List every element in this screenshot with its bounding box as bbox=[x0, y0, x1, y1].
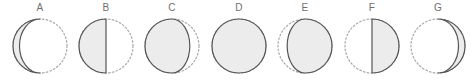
phase-label: F bbox=[339, 2, 405, 14]
lit-region bbox=[372, 19, 399, 73]
phase-label: D bbox=[206, 2, 272, 14]
moon-disc bbox=[272, 14, 338, 80]
moon-phase-panel: B bbox=[73, 0, 139, 81]
phase-label: G bbox=[405, 2, 471, 14]
lit-region bbox=[438, 19, 465, 73]
moon-disc bbox=[7, 14, 73, 80]
lit-region bbox=[145, 19, 190, 73]
moon-phase-panel: G bbox=[405, 0, 471, 81]
moon-disc bbox=[405, 14, 471, 80]
moon-disc bbox=[206, 14, 272, 80]
moon-phase-panel: F bbox=[339, 0, 405, 81]
moon-phase-panel: D bbox=[206, 0, 272, 81]
lit-region bbox=[287, 19, 332, 73]
moon-phase-panel: E bbox=[272, 0, 338, 81]
phase-label: C bbox=[139, 2, 205, 14]
moon-disc bbox=[73, 14, 139, 80]
moon-disc bbox=[139, 14, 205, 80]
phase-label: A bbox=[7, 2, 73, 14]
lit-region bbox=[212, 19, 266, 73]
moon-disc bbox=[339, 14, 405, 80]
phase-label: E bbox=[272, 2, 338, 14]
moon-phase-panel: C bbox=[139, 0, 205, 81]
lit-region bbox=[13, 19, 40, 73]
moon-phase-figure: ABCDEFG bbox=[0, 0, 476, 81]
moon-phase-panel: A bbox=[7, 0, 73, 81]
phase-label: B bbox=[73, 2, 139, 14]
lit-region bbox=[79, 19, 106, 73]
